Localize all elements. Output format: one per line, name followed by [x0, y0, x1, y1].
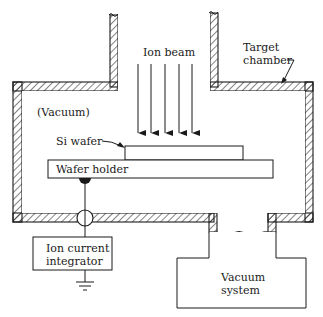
target-chamber-label-line2: chamber — [243, 54, 293, 67]
si-wafer — [125, 146, 243, 160]
ground-icon — [76, 270, 94, 290]
ion-current-integrator-label-line1: Ion current — [46, 242, 110, 255]
target-chamber-label-line1: Target — [243, 41, 280, 54]
ion-current-integrator-label-line2: integrator — [46, 255, 103, 268]
vacuum-system-label-line2: system — [221, 284, 260, 297]
si-wafer-label: Si wafer — [56, 135, 103, 148]
vacuum-system-label-line1: Vacuum — [220, 271, 266, 284]
ion-implantation-diagram: Ion beam Target chamber (Vacuum) Si wafe… — [0, 0, 323, 317]
ion-beam-label: Ion beam — [143, 46, 196, 59]
vacuum-label: (Vacuum) — [37, 106, 90, 119]
wafer-holder-label: Wafer holder — [56, 163, 129, 176]
